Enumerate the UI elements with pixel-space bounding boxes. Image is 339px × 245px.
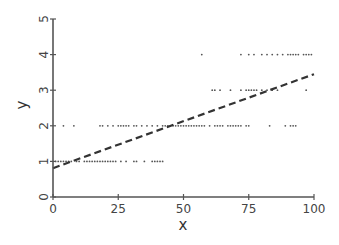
data-point: [282, 54, 284, 56]
data-point: [290, 54, 292, 56]
data-point: [151, 125, 153, 127]
scatter-chart: 0255075100 012345 x y: [0, 0, 339, 245]
data-point: [211, 89, 213, 91]
data-point: [157, 125, 159, 127]
data-point: [185, 125, 187, 127]
data-point: [60, 161, 62, 163]
data-point: [295, 125, 297, 127]
data-point: [83, 161, 85, 163]
data-point: [102, 161, 104, 163]
data-point: [198, 125, 200, 127]
data-point: [65, 161, 67, 163]
data-point: [188, 125, 190, 127]
data-point: [261, 54, 263, 56]
data-point: [63, 161, 65, 163]
data-point: [305, 54, 307, 56]
data-point: [245, 125, 247, 127]
x-axis-title: x: [179, 216, 188, 234]
data-point: [133, 125, 135, 127]
y-tick-label: 3: [37, 86, 51, 94]
data-point: [107, 125, 109, 127]
y-tick-label: 4: [37, 51, 51, 59]
data-point: [250, 89, 252, 91]
data-point: [248, 125, 250, 127]
y-tick-label: 0: [37, 193, 51, 201]
data-point: [203, 125, 205, 127]
data-point: [94, 161, 96, 163]
data-point: [214, 89, 216, 91]
data-point: [277, 89, 279, 91]
data-point: [201, 125, 203, 127]
data-point: [99, 161, 101, 163]
data-point: [70, 161, 72, 163]
data-point: [115, 161, 117, 163]
data-point: [151, 161, 153, 163]
data-point: [57, 161, 59, 163]
data-point: [303, 54, 305, 56]
data-point: [253, 54, 255, 56]
data-point: [240, 125, 242, 127]
data-point: [240, 89, 242, 91]
data-point: [266, 54, 268, 56]
data-point: [256, 89, 258, 91]
data-point: [125, 125, 127, 127]
data-point: [235, 125, 237, 127]
data-point: [196, 125, 198, 127]
data-point: [162, 125, 164, 127]
data-point: [292, 125, 294, 127]
data-point: [99, 125, 101, 127]
data-point: [305, 89, 307, 91]
data-point: [214, 125, 216, 127]
data-point: [125, 161, 127, 163]
data-point: [63, 125, 65, 127]
data-point: [89, 161, 91, 163]
data-point: [297, 54, 299, 56]
data-point: [112, 161, 114, 163]
data-point: [120, 125, 122, 127]
data-point: [284, 125, 286, 127]
data-point: [107, 161, 109, 163]
y-tick-label: 2: [37, 122, 51, 130]
data-point: [219, 89, 221, 91]
data-point: [157, 161, 159, 163]
data-point: [287, 54, 289, 56]
data-point: [248, 89, 250, 91]
data-point: [177, 125, 179, 127]
y-tick-label: 1: [37, 158, 51, 166]
data-point: [227, 125, 229, 127]
data-point: [230, 125, 232, 127]
data-point: [128, 125, 130, 127]
data-point: [209, 125, 211, 127]
data-point: [240, 54, 242, 56]
data-point: [120, 161, 122, 163]
data-point: [230, 89, 232, 91]
data-point: [295, 54, 297, 56]
data-point: [136, 125, 138, 127]
data-point: [261, 89, 263, 91]
data-point: [159, 161, 161, 163]
data-point: [271, 54, 273, 56]
data-point: [277, 54, 279, 56]
data-point: [164, 125, 166, 127]
data-point: [73, 125, 75, 127]
data-point: [136, 161, 138, 163]
data-point: [117, 125, 119, 127]
data-point: [180, 125, 182, 127]
x-tick-label: 100: [303, 202, 326, 216]
data-point: [86, 161, 88, 163]
data-point: [146, 125, 148, 127]
data-point: [104, 161, 106, 163]
data-point: [222, 125, 224, 127]
data-point: [133, 161, 135, 163]
data-point: [154, 161, 156, 163]
data-point: [248, 54, 250, 56]
data-point: [143, 161, 145, 163]
x-tick-label: 50: [176, 202, 191, 216]
x-tick-label: 0: [49, 202, 57, 216]
y-tick-label: 5: [37, 15, 51, 23]
data-point: [190, 125, 192, 127]
data-point: [91, 161, 93, 163]
data-point: [269, 125, 271, 127]
data-point: [78, 161, 80, 163]
data-point: [292, 54, 294, 56]
